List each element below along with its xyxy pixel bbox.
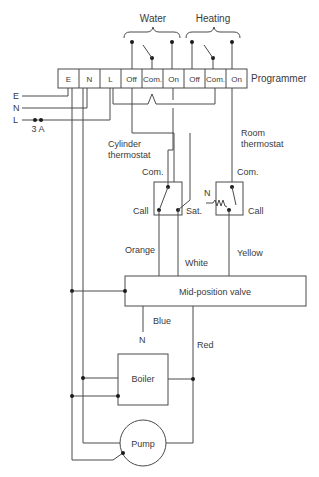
heating-switch — [190, 40, 234, 69]
programmer-label: Programmer — [251, 73, 307, 84]
fuse-label: 3 A — [31, 124, 44, 134]
room-thermostat — [206, 182, 243, 215]
cylinder-sat-label: Sat. — [186, 206, 202, 216]
cylinder-thermostat-label-1: Cylinder — [108, 139, 141, 149]
boiler: Boiler — [118, 354, 168, 405]
white-label: White — [185, 258, 208, 268]
terminal-n: N — [87, 75, 93, 84]
terminal-heating-com: Com. — [206, 75, 225, 84]
pump-earth-wire — [72, 453, 123, 460]
room-com-label: Com. — [237, 167, 259, 177]
supply-earth-label: E — [13, 91, 19, 101]
pump-label: Pump — [131, 439, 155, 449]
room-call-label: Call — [248, 206, 264, 216]
heating-label: Heating — [196, 13, 230, 24]
pump: Pump — [120, 420, 166, 466]
cylinder-thermostat-label-2: thermostat — [108, 150, 151, 160]
valve-label: Mid-position valve — [179, 287, 251, 297]
water-brace: Water — [124, 13, 180, 38]
heating-brace: Heating — [186, 13, 240, 38]
terminal-heating-off: Off — [189, 75, 200, 84]
water-switch — [130, 40, 174, 69]
live-link-wire — [113, 88, 215, 104]
supply: E N L 3 A — [13, 88, 110, 430]
supply-neutral-label: N — [13, 103, 20, 113]
terminal-l: L — [108, 75, 113, 84]
terminal-heating-on: On — [231, 75, 242, 84]
water-label: Water — [140, 13, 167, 24]
blue-label: Blue — [153, 316, 171, 326]
cylinder-call-label: Call — [133, 206, 149, 216]
orange-label: Orange — [125, 245, 155, 255]
pump-neutral-wire — [83, 430, 120, 443]
terminal-water-on: On — [168, 75, 179, 84]
yellow-label: Yellow — [237, 248, 263, 258]
red-label: Red — [197, 340, 214, 350]
programmer-terminal-strip: E N L Off Com. On Off Com. On — [58, 69, 247, 88]
blue-neutral-label: N — [139, 335, 146, 345]
supply-live-label: L — [13, 115, 18, 125]
terminal-e: E — [66, 75, 71, 84]
room-thermostat-label-2: thermostat — [241, 139, 284, 149]
boiler-label: Boiler — [131, 374, 154, 384]
terminal-water-com: Com. — [143, 75, 162, 84]
cylinder-com-label: Com. — [142, 167, 164, 177]
room-thermostat-label-1: Room — [241, 128, 265, 138]
mid-position-valve: Mid-position valve — [125, 276, 306, 306]
terminal-water-off: Off — [126, 75, 137, 84]
water-on-wire — [168, 88, 173, 185]
wiring-diagram: Water Heating E N L Off — [0, 0, 319, 477]
room-neutral-label: N — [204, 188, 211, 198]
